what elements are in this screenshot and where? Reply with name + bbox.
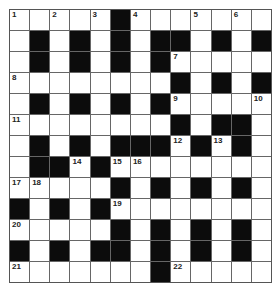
answer-cell[interactable]: [252, 157, 271, 177]
answer-cell[interactable]: [30, 199, 49, 219]
answer-cell[interactable]: [131, 262, 150, 282]
answer-cell[interactable]: [191, 262, 210, 282]
answer-cell[interactable]: [252, 262, 271, 282]
answer-cell[interactable]: 5: [191, 10, 210, 30]
answer-cell[interactable]: [91, 52, 110, 72]
answer-cell[interactable]: [252, 115, 271, 135]
answer-cell[interactable]: [30, 73, 49, 93]
answer-cell[interactable]: [252, 199, 271, 219]
answer-cell[interactable]: [50, 73, 69, 93]
answer-cell[interactable]: [252, 136, 271, 156]
answer-cell[interactable]: [50, 136, 69, 156]
answer-cell[interactable]: [252, 241, 271, 261]
answer-cell[interactable]: 8: [10, 73, 29, 93]
answer-cell[interactable]: [70, 115, 89, 135]
answer-cell[interactable]: [91, 73, 110, 93]
answer-cell[interactable]: [171, 178, 190, 198]
answer-cell[interactable]: [10, 52, 29, 72]
answer-cell[interactable]: [232, 262, 251, 282]
answer-cell[interactable]: [10, 31, 29, 51]
answer-cell[interactable]: [131, 199, 150, 219]
answer-cell[interactable]: [111, 115, 130, 135]
answer-cell[interactable]: [252, 178, 271, 198]
answer-cell[interactable]: [131, 52, 150, 72]
answer-cell[interactable]: [212, 52, 231, 72]
answer-cell[interactable]: [191, 31, 210, 51]
answer-cell[interactable]: 6: [232, 10, 251, 30]
answer-cell[interactable]: [131, 241, 150, 261]
answer-cell[interactable]: [131, 73, 150, 93]
answer-cell[interactable]: [191, 94, 210, 114]
answer-cell[interactable]: [232, 94, 251, 114]
answer-cell[interactable]: [50, 52, 69, 72]
answer-cell[interactable]: [252, 52, 271, 72]
answer-cell[interactable]: [252, 220, 271, 240]
answer-cell[interactable]: [131, 94, 150, 114]
answer-cell[interactable]: [131, 31, 150, 51]
answer-cell[interactable]: [10, 94, 29, 114]
answer-cell[interactable]: 3: [91, 10, 110, 30]
answer-cell[interactable]: 2: [50, 10, 69, 30]
answer-cell[interactable]: [91, 178, 110, 198]
answer-cell[interactable]: [232, 157, 251, 177]
answer-cell[interactable]: 11: [10, 115, 29, 135]
answer-cell[interactable]: [91, 262, 110, 282]
answer-cell[interactable]: 12: [171, 136, 190, 156]
answer-cell[interactable]: 13: [212, 136, 231, 156]
answer-cell[interactable]: 17: [10, 178, 29, 198]
answer-cell[interactable]: [191, 52, 210, 72]
answer-cell[interactable]: 20: [10, 220, 29, 240]
answer-cell[interactable]: [212, 220, 231, 240]
answer-cell[interactable]: [131, 220, 150, 240]
answer-cell[interactable]: 10: [252, 94, 271, 114]
answer-cell[interactable]: [191, 73, 210, 93]
answer-cell[interactable]: [50, 94, 69, 114]
answer-cell[interactable]: [171, 220, 190, 240]
answer-cell[interactable]: [191, 115, 210, 135]
answer-cell[interactable]: [10, 157, 29, 177]
answer-cell[interactable]: [70, 178, 89, 198]
answer-cell[interactable]: [212, 178, 231, 198]
answer-cell[interactable]: [252, 10, 271, 30]
answer-cell[interactable]: [171, 157, 190, 177]
answer-cell[interactable]: [151, 73, 170, 93]
answer-cell[interactable]: 21: [10, 262, 29, 282]
answer-cell[interactable]: 16: [131, 157, 150, 177]
answer-cell[interactable]: [50, 220, 69, 240]
answer-cell[interactable]: 4: [131, 10, 150, 30]
answer-cell[interactable]: [91, 115, 110, 135]
answer-cell[interactable]: [151, 10, 170, 30]
answer-cell[interactable]: [30, 241, 49, 261]
answer-cell[interactable]: [50, 31, 69, 51]
answer-cell[interactable]: [70, 262, 89, 282]
answer-cell[interactable]: [171, 199, 190, 219]
answer-cell[interactable]: [151, 115, 170, 135]
answer-cell[interactable]: [212, 10, 231, 30]
answer-cell[interactable]: 22: [171, 262, 190, 282]
answer-cell[interactable]: [212, 157, 231, 177]
answer-cell[interactable]: 18: [30, 178, 49, 198]
answer-cell[interactable]: 19: [111, 199, 130, 219]
answer-cell[interactable]: [232, 31, 251, 51]
answer-cell[interactable]: [70, 199, 89, 219]
answer-cell[interactable]: 14: [70, 157, 89, 177]
answer-cell[interactable]: [30, 10, 49, 30]
answer-cell[interactable]: [131, 178, 150, 198]
answer-cell[interactable]: [232, 52, 251, 72]
answer-cell[interactable]: [212, 241, 231, 261]
answer-cell[interactable]: 9: [171, 94, 190, 114]
answer-cell[interactable]: [91, 94, 110, 114]
answer-cell[interactable]: [131, 115, 150, 135]
answer-cell[interactable]: [70, 220, 89, 240]
answer-cell[interactable]: [212, 199, 231, 219]
answer-cell[interactable]: [10, 136, 29, 156]
answer-cell[interactable]: [70, 73, 89, 93]
answer-cell[interactable]: 1: [10, 10, 29, 30]
answer-cell[interactable]: [151, 199, 170, 219]
answer-cell[interactable]: 7: [171, 52, 190, 72]
answer-cell[interactable]: [50, 178, 69, 198]
answer-cell[interactable]: [212, 94, 231, 114]
answer-cell[interactable]: [50, 115, 69, 135]
answer-cell[interactable]: [70, 10, 89, 30]
answer-cell[interactable]: [91, 136, 110, 156]
